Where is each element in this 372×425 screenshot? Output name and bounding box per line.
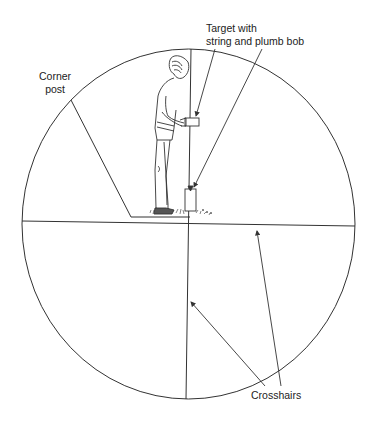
plumb-bob bbox=[185, 186, 196, 211]
arrow-target bbox=[196, 49, 215, 116]
label-crosshairs: Crosshairs bbox=[251, 389, 301, 402]
label-corner-post: Corner post bbox=[39, 70, 71, 95]
label-corner-line1: Corner bbox=[39, 70, 71, 83]
arrow-plumb-bob bbox=[194, 49, 262, 187]
label-target-line1: Target with bbox=[206, 22, 304, 35]
arrow-crosshair-horizontal bbox=[257, 231, 281, 386]
label-target: Target with string and plumb bob bbox=[206, 22, 304, 47]
label-target-line2: string and plumb bob bbox=[206, 35, 304, 48]
target-board bbox=[185, 118, 199, 126]
diagram-canvas bbox=[0, 0, 372, 425]
label-corner-line2: post bbox=[39, 83, 71, 96]
corner-post-outline bbox=[71, 100, 190, 217]
arrow-crosshair-vertical bbox=[191, 302, 265, 386]
